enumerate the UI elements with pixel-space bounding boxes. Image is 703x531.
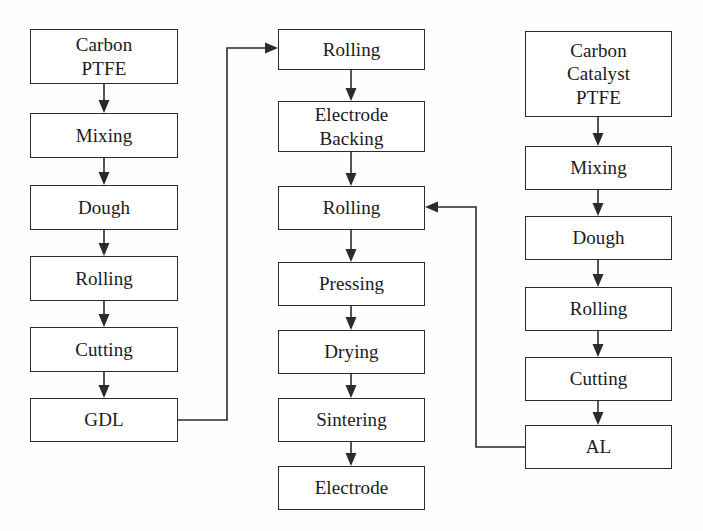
node-label: GDL: [80, 408, 127, 431]
arrow-head-m1-m2: [346, 88, 357, 101]
node-label: Carbon PTFE: [72, 33, 137, 79]
node-electrode: Electrode: [278, 466, 425, 510]
node-label: Pressing: [315, 272, 388, 295]
arrow-head-l3-l4: [99, 243, 110, 256]
node-label: Cutting: [71, 338, 137, 361]
node-label: Electrode Backing: [311, 103, 393, 149]
arrow-head-r5-r6: [593, 412, 604, 425]
arrow-head-m4-m5: [346, 317, 357, 330]
node-label: Mixing: [72, 124, 137, 147]
node-label: AL: [582, 435, 616, 458]
node-carbon-catalyst-ptfe: Carbon Catalyst PTFE: [525, 31, 672, 117]
node-sintering: Sintering: [278, 398, 425, 442]
node-mixing-gdl: Mixing: [30, 113, 178, 158]
node-rolling-al: Rolling: [525, 287, 672, 331]
node-al: AL: [525, 425, 672, 469]
arrow-head-r3-r4: [593, 274, 604, 287]
node-cutting-gdl: Cutting: [30, 327, 178, 372]
node-label: Dough: [74, 196, 134, 219]
al-to-rolling-path: [438, 207, 525, 447]
node-dough-gdl: Dough: [30, 185, 178, 230]
gdl-to-rolling-path: [178, 48, 265, 420]
arrow-head-m2-m3: [346, 173, 357, 186]
node-label: Sintering: [312, 408, 391, 431]
node-label: Rolling: [319, 196, 385, 219]
node-label: Drying: [320, 340, 382, 363]
arrow-head-m5-m6: [346, 385, 357, 398]
arrow-head-r1-r2: [593, 133, 604, 146]
node-gdl: GDL: [30, 398, 178, 442]
node-dough-al: Dough: [525, 216, 672, 260]
node-label: Cutting: [566, 367, 632, 390]
al-to-rolling-connector: [425, 202, 525, 448]
arrow-head-m6-m7: [346, 453, 357, 466]
arrow-head-l5-l6: [99, 385, 110, 398]
node-label: Electrode: [311, 476, 393, 499]
al-to-rolling-arrow-head: [425, 202, 438, 213]
arrow-head-l4-l5: [99, 314, 110, 327]
node-label: Mixing: [566, 156, 631, 179]
node-drying: Drying: [278, 330, 425, 374]
node-pressing: Pressing: [278, 262, 425, 306]
arrow-head-m3-m4: [346, 249, 357, 262]
node-electrode-backing: Electrode Backing: [278, 101, 425, 152]
process-flow-diagram: Carbon PTFE Mixing Dough Rolling Cutting…: [0, 0, 703, 531]
gdl-to-rolling-connector: [178, 43, 278, 421]
gdl-to-rolling-arrow-head: [265, 43, 278, 54]
arrow-head-r4-r5: [593, 344, 604, 357]
node-label: Rolling: [319, 38, 385, 61]
node-rolling-assembly-mid: Rolling: [278, 186, 425, 230]
node-label: Rolling: [566, 297, 632, 320]
arrow-head-l2-l3: [99, 172, 110, 185]
arrow-head-r2-r3: [593, 203, 604, 216]
node-mixing-al: Mixing: [525, 146, 672, 190]
node-carbon-ptfe: Carbon PTFE: [30, 29, 178, 84]
node-cutting-al: Cutting: [525, 357, 672, 401]
arrow-head-l1-l2: [99, 100, 110, 113]
node-label: Dough: [568, 226, 628, 249]
node-rolling-assembly-top: Rolling: [278, 29, 425, 70]
node-label: Carbon Catalyst PTFE: [563, 39, 634, 109]
node-label: Rolling: [71, 267, 137, 290]
node-rolling-gdl: Rolling: [30, 256, 178, 301]
